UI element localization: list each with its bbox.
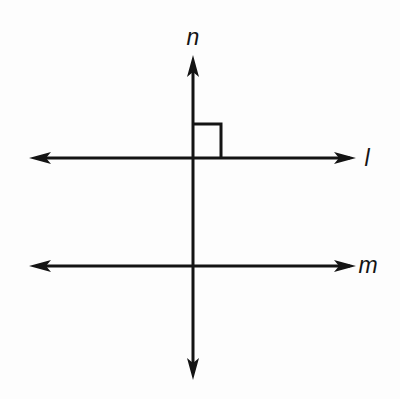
- label-line-l: l: [364, 145, 370, 171]
- geometry-figure: n l m: [0, 0, 400, 399]
- figure-canvas: n l m: [0, 0, 400, 399]
- label-line-n: n: [187, 24, 200, 50]
- right-angle-marker-icon: [194, 124, 221, 157]
- line-n-group: [187, 55, 199, 380]
- label-line-m: m: [358, 252, 377, 278]
